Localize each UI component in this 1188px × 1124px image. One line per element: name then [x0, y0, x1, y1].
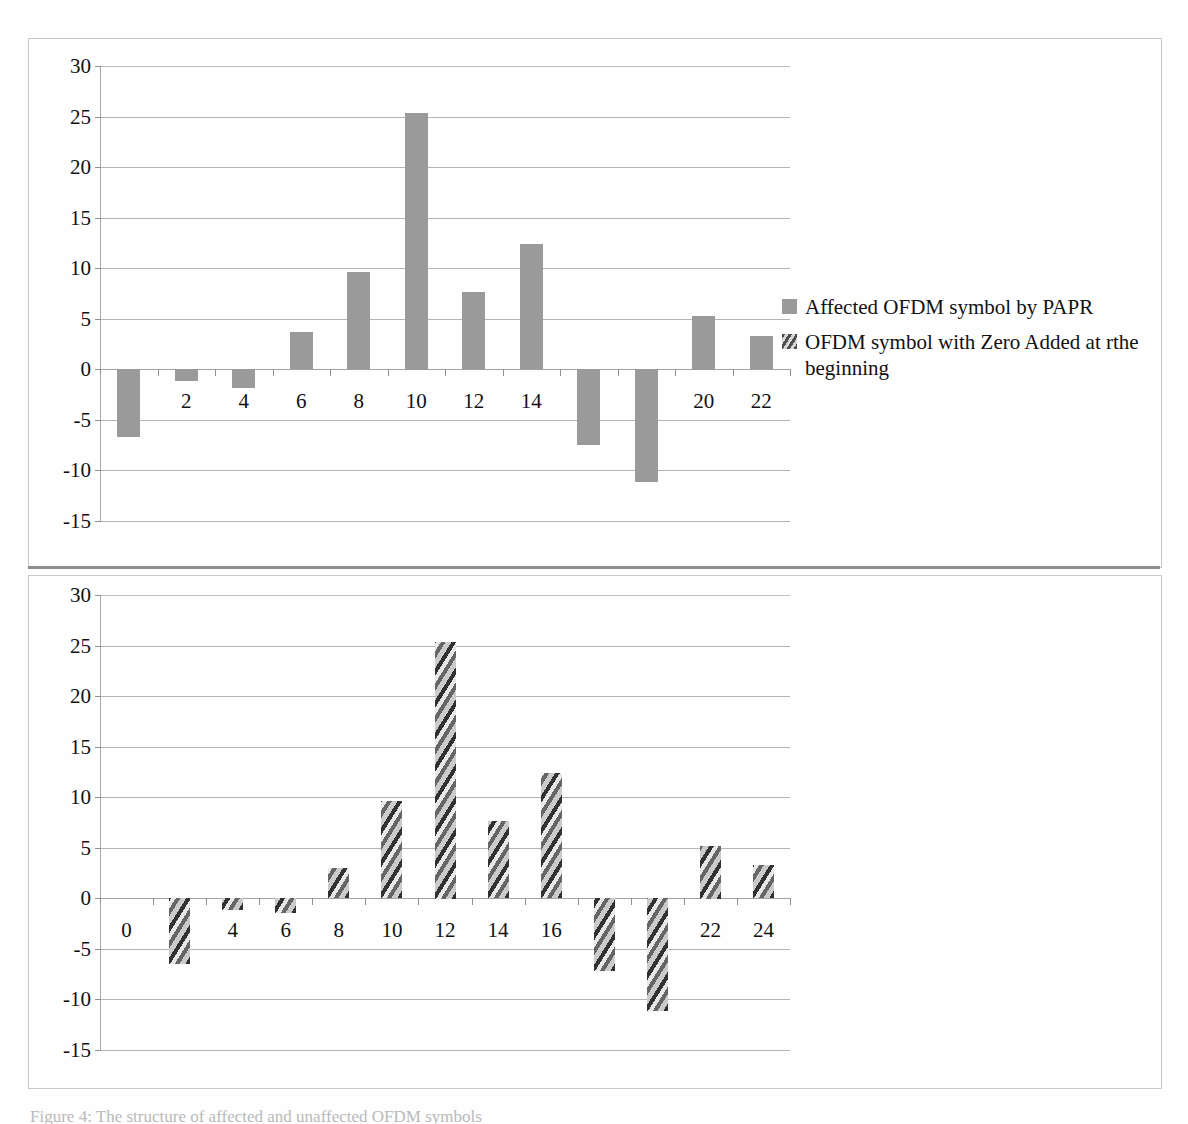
y-axis-label: -15 — [63, 1040, 91, 1061]
y-axis-label: -5 — [74, 409, 92, 430]
y-axis-tick — [95, 1050, 101, 1051]
y-axis-label: -10 — [63, 989, 91, 1010]
x-axis-label: 8 — [354, 391, 365, 412]
bar — [381, 801, 402, 898]
top-y-axis — [100, 66, 101, 521]
gridline — [100, 268, 790, 269]
x-axis-label: 4 — [239, 391, 250, 412]
y-axis-label: 20 — [70, 686, 91, 707]
y-axis-label: 30 — [70, 585, 91, 606]
bar — [594, 898, 615, 971]
y-axis-tick — [95, 420, 101, 421]
gridline — [100, 999, 790, 1000]
x-axis-tick-minor — [675, 369, 676, 374]
bar — [328, 868, 349, 898]
x-axis-label: 20 — [693, 391, 714, 412]
y-axis-tick — [95, 797, 101, 798]
x-axis-label: 12 — [463, 391, 484, 412]
bottom-plot-wrapper: 302520151050-5-10-1502468101214161820222… — [28, 575, 1160, 1087]
top-plot-area: 302520151050-5-10-150246810121416182022 — [100, 66, 790, 521]
bar — [520, 244, 543, 369]
legend-item-affected: Affected OFDM symbol by PAPR — [782, 294, 1142, 320]
y-axis-tick — [95, 595, 101, 596]
figure-caption: Figure 4: The structure of affected and … — [30, 1107, 1160, 1124]
bar — [232, 369, 255, 388]
y-axis-label: -10 — [63, 460, 91, 481]
x-axis-tick-minor — [330, 369, 331, 374]
gridline — [100, 167, 790, 168]
bar — [635, 369, 658, 482]
x-axis-tick-minor — [259, 898, 260, 903]
y-axis-tick — [95, 999, 101, 1000]
y-axis-label: 5 — [81, 308, 92, 329]
y-axis-label: 30 — [70, 56, 91, 77]
gridline — [100, 470, 790, 471]
x-axis-tick-minor — [206, 898, 207, 903]
x-axis-label: 16 — [541, 920, 562, 941]
y-axis-tick — [95, 949, 101, 950]
x-axis-tick-minor — [153, 898, 154, 903]
x-axis-label: 14 — [521, 391, 542, 412]
legend-swatch-hatched-icon — [782, 334, 797, 349]
x-axis-tick-minor — [618, 369, 619, 374]
x-axis-tick-minor — [273, 369, 274, 374]
y-axis-label: 25 — [70, 635, 91, 656]
x-axis-label: 10 — [381, 920, 402, 941]
bottom-bar-chart: 302520151050-5-10-1502468101214161820222… — [28, 575, 1160, 1087]
bar — [647, 898, 668, 1011]
gridline — [100, 319, 790, 320]
x-axis-tick-minor — [365, 898, 366, 903]
bar — [169, 898, 190, 964]
bar — [753, 865, 774, 898]
bar — [275, 898, 296, 913]
x-axis-tick-minor — [737, 898, 738, 903]
bottom-y-axis — [100, 595, 101, 1050]
bar — [222, 898, 243, 910]
chart-divider — [28, 566, 1160, 569]
y-axis-tick — [95, 117, 101, 118]
y-axis-tick — [95, 167, 101, 168]
bar — [488, 821, 509, 898]
x-axis-label: 10 — [406, 391, 427, 412]
gridline — [100, 117, 790, 118]
y-axis-tick — [95, 696, 101, 697]
y-axis-tick — [95, 66, 101, 67]
x-axis-tick-minor — [215, 369, 216, 374]
x-axis-label: 0 — [121, 920, 132, 941]
x-axis-label: 14 — [488, 920, 509, 941]
gridline — [100, 949, 790, 950]
x-axis-tick-minor — [578, 898, 579, 903]
y-axis-label: 20 — [70, 157, 91, 178]
gridline — [100, 1050, 790, 1051]
y-axis-label: 15 — [70, 736, 91, 757]
y-axis-label: 5 — [81, 837, 92, 858]
x-axis-tick-minor — [158, 369, 159, 374]
y-axis-label: 15 — [70, 207, 91, 228]
y-axis-label: 10 — [70, 258, 91, 279]
figure-page: 302520151050-5-10-150246810121416182022 … — [0, 0, 1188, 1124]
gridline — [100, 595, 790, 596]
y-axis-tick — [95, 646, 101, 647]
bar — [692, 316, 715, 370]
x-axis-tick-minor — [388, 369, 389, 374]
bar — [175, 369, 198, 381]
bar — [541, 773, 562, 898]
y-axis-tick — [95, 218, 101, 219]
x-axis-tick-minor — [418, 898, 419, 903]
x-axis-tick-minor — [312, 898, 313, 903]
x-axis-label: 2 — [181, 391, 192, 412]
x-axis-tick-minor — [100, 369, 101, 374]
legend-item-zero-added: OFDM symbol with Zero Added at rthe begi… — [782, 329, 1142, 381]
bar — [700, 846, 721, 899]
x-axis-label: 12 — [435, 920, 456, 941]
x-axis-tick-minor — [472, 898, 473, 903]
y-axis-label: 0 — [81, 359, 92, 380]
bar — [577, 369, 600, 445]
y-axis-label: 0 — [81, 888, 92, 909]
y-axis-tick — [95, 319, 101, 320]
bar — [435, 642, 456, 899]
x-axis-label: 22 — [700, 920, 721, 941]
y-axis-tick — [95, 470, 101, 471]
bar — [290, 332, 313, 369]
x-axis-tick-minor — [684, 898, 685, 903]
